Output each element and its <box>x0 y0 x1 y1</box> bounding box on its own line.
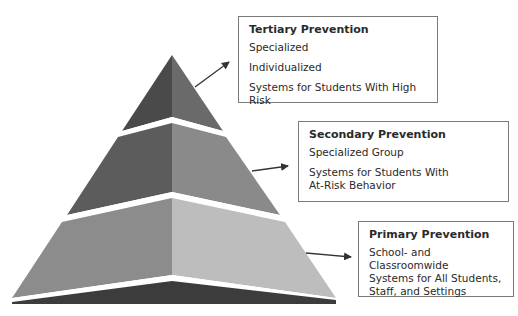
primary-line-3: Staff, and Settings <box>369 285 503 298</box>
secondary-line-3: At-Risk Behavior <box>309 179 498 192</box>
primary-line-2: Systems for All Students, <box>369 272 503 285</box>
arrow-tertiary <box>195 62 229 87</box>
tertiary-line-3: Systems for Students With High Risk <box>249 81 427 107</box>
arrow-secondary <box>252 166 288 171</box>
primary-title: Primary Prevention <box>369 228 503 241</box>
primary-prevention-box: Primary Prevention School- and Classroom… <box>358 221 514 297</box>
tertiary-line-2: Individualized <box>249 61 427 74</box>
tertiary-title: Tertiary Prevention <box>249 23 427 36</box>
primary-line-1: School- and Classroomwide <box>369 246 503 272</box>
secondary-line-2: Systems for Students With <box>309 166 498 179</box>
arrow-primary <box>306 253 351 257</box>
secondary-prevention-box: Secondary Prevention Specialized Group S… <box>298 121 509 202</box>
tertiary-prevention-box: Tertiary Prevention Specialized Individu… <box>238 16 438 103</box>
secondary-title: Secondary Prevention <box>309 128 498 141</box>
secondary-line-1: Specialized Group <box>309 146 498 159</box>
tertiary-line-1: Specialized <box>249 41 427 54</box>
